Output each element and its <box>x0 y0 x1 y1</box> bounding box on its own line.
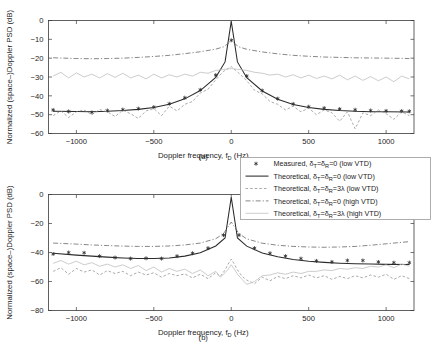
legend-label: Theoretical, δT=δR=3λ (low VTD) <box>274 184 379 194</box>
y-tick-label: −20 <box>31 219 44 228</box>
figure-svg: −1000−500050010000−10−20−30−40−50−60Norm… <box>0 0 432 358</box>
x-tick-label: −1000 <box>66 314 87 323</box>
plot-frame <box>49 21 415 134</box>
x-tick-label: 0 <box>229 137 233 146</box>
y-tick-label: −40 <box>31 92 44 101</box>
x-tick-label: 500 <box>302 314 315 323</box>
x-tick-label: 0 <box>229 314 233 323</box>
y-axis-label: Normalized (space–)Doppler PSD (dB) <box>5 9 14 144</box>
legend-label: Theoretical, δT=δR=0 (high VTD) <box>274 197 378 207</box>
x-tick-label: 1000 <box>378 314 395 323</box>
legend-label: Measured, δT=δR=0 (low VTD) <box>274 159 372 169</box>
y-tick-label: −30 <box>31 73 44 82</box>
y-tick-label: −80 <box>31 306 44 315</box>
x-tick-label: 500 <box>302 137 315 146</box>
y-tick-label: −50 <box>31 110 44 119</box>
x-tick-label: −500 <box>145 314 162 323</box>
y-tick-label: 0 <box>39 16 43 25</box>
y-tick-label: −40 <box>31 248 44 257</box>
panel-caption: (a) <box>199 152 209 161</box>
y-tick-label: −60 <box>31 277 44 286</box>
x-tick-label: 1000 <box>378 137 395 146</box>
figure-container: −1000−500050010000−10−20−30−40−50−60Norm… <box>0 0 432 358</box>
x-tick-label: −1000 <box>66 137 87 146</box>
y-tick-label: 0 <box>39 190 43 199</box>
panel-caption: (b) <box>199 333 209 342</box>
legend-label: Theoretical, δT=δR=3λ (high VTD) <box>274 209 382 219</box>
legend-label: Theoretical, δT=δR=0 (low VTD) <box>274 172 375 182</box>
y-tick-label: −20 <box>31 54 44 63</box>
x-tick-label: −500 <box>145 137 162 146</box>
y-tick-label: −60 <box>31 129 44 138</box>
legend[interactable]: Measured, δT=δR=0 (low VTD)Theoretical, … <box>241 158 431 220</box>
y-axis-label: Normalized (space–)Doppler PSD (dB) <box>5 185 14 320</box>
y-tick-label: −10 <box>31 35 44 44</box>
